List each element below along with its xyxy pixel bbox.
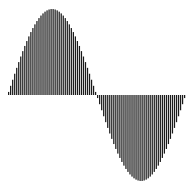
bar bbox=[125, 95, 126, 169]
bar bbox=[139, 95, 140, 181]
bar bbox=[178, 95, 179, 116]
bar bbox=[123, 95, 124, 166]
bar bbox=[16, 68, 17, 95]
bar bbox=[38, 18, 39, 95]
bar bbox=[170, 95, 171, 139]
bar bbox=[99, 95, 100, 104]
bar bbox=[146, 95, 147, 180]
bar bbox=[129, 95, 130, 174]
bar bbox=[182, 95, 183, 104]
bar bbox=[174, 95, 175, 128]
bar bbox=[63, 16, 64, 95]
bar bbox=[61, 13, 62, 95]
bar bbox=[28, 36, 29, 95]
bar bbox=[119, 95, 120, 158]
bar bbox=[36, 21, 37, 95]
bar bbox=[150, 95, 151, 177]
bar bbox=[81, 51, 82, 95]
bar bbox=[22, 51, 23, 95]
bar bbox=[103, 95, 104, 116]
bar bbox=[184, 95, 185, 98]
bar bbox=[113, 95, 114, 144]
bar bbox=[42, 13, 43, 95]
bar bbox=[18, 62, 19, 95]
bar bbox=[26, 41, 27, 95]
bar bbox=[107, 95, 108, 128]
bar bbox=[109, 95, 110, 134]
bar bbox=[73, 32, 74, 95]
bar bbox=[53, 9, 54, 95]
bar bbox=[117, 95, 118, 154]
bar bbox=[137, 95, 138, 181]
bar bbox=[57, 10, 58, 95]
bar bbox=[168, 95, 169, 144]
bar bbox=[166, 95, 167, 149]
bar bbox=[65, 18, 66, 95]
bar bbox=[97, 95, 98, 98]
bar bbox=[46, 10, 47, 95]
bar bbox=[69, 24, 70, 95]
bar bbox=[75, 36, 76, 95]
bar bbox=[93, 86, 94, 95]
bar bbox=[89, 74, 90, 95]
bar bbox=[10, 86, 11, 95]
bar bbox=[85, 62, 86, 95]
bar bbox=[30, 32, 31, 95]
bar bbox=[48, 9, 49, 95]
bar bbox=[79, 46, 80, 95]
bar bbox=[180, 95, 181, 110]
bar bbox=[160, 95, 161, 162]
bar bbox=[158, 95, 159, 166]
bar bbox=[142, 95, 143, 181]
bar bbox=[71, 28, 72, 95]
bar bbox=[91, 80, 92, 95]
bar bbox=[77, 41, 78, 95]
bar bbox=[83, 57, 84, 95]
bar bbox=[121, 95, 122, 162]
bar bbox=[20, 57, 21, 96]
bar bbox=[50, 9, 51, 95]
bar bbox=[156, 95, 157, 169]
bar bbox=[133, 95, 134, 178]
sine-bars bbox=[8, 9, 185, 181]
bar bbox=[164, 95, 165, 154]
bar bbox=[67, 21, 68, 95]
bar bbox=[148, 95, 149, 178]
bar bbox=[127, 95, 128, 172]
bar bbox=[32, 28, 33, 95]
bar bbox=[44, 12, 45, 95]
bar bbox=[95, 92, 96, 95]
bar bbox=[24, 46, 25, 95]
bar bbox=[162, 95, 163, 158]
bar bbox=[111, 95, 112, 139]
bar bbox=[154, 95, 155, 172]
bar bbox=[14, 74, 15, 95]
bar bbox=[8, 92, 9, 95]
bar bbox=[172, 95, 173, 133]
bar bbox=[55, 9, 56, 95]
bar bbox=[59, 12, 60, 95]
bar bbox=[115, 95, 116, 149]
bar bbox=[152, 95, 153, 174]
bar bbox=[144, 95, 145, 181]
bar bbox=[131, 95, 132, 177]
bar bbox=[40, 16, 41, 95]
bar bbox=[135, 95, 136, 180]
bar bbox=[101, 95, 102, 110]
bar bbox=[12, 80, 13, 95]
bar bbox=[34, 24, 35, 95]
bar bbox=[87, 68, 88, 95]
sine-bar-chart bbox=[0, 0, 196, 190]
bar bbox=[105, 95, 106, 122]
bar bbox=[176, 95, 177, 122]
